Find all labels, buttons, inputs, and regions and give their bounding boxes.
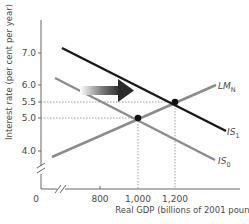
guide-lines [41, 102, 175, 189]
is-lm-chart: 7.0 6.0 5.5 5.0 4.0 Interest rate (per c… [0, 0, 249, 224]
x-tick-1000: 1,000 [125, 194, 151, 204]
y-tick-4: 4.0 [22, 146, 37, 156]
lm-label: LMN [218, 81, 236, 94]
x-origin-label: 0 [33, 194, 39, 204]
x-tick-1200: 1,200 [162, 194, 188, 204]
y-tick-5-5: 5.5 [22, 97, 36, 107]
shift-arrow-icon [80, 79, 134, 102]
x-axis: 0 800 1,000 1,200 Real GDP (billions of … [33, 185, 249, 215]
equilibrium-point-new [172, 99, 179, 106]
y-axis: 7.0 6.0 5.5 5.0 4.0 Interest rate (per c… [4, 4, 45, 189]
lm-curve [52, 85, 216, 157]
y-tick-6: 6.0 [22, 80, 37, 90]
x-axis-title: Real GDP (billions of 2001 pounds) [115, 205, 249, 215]
x-tick-800: 800 [91, 194, 108, 204]
is0-label: IS0 [218, 156, 231, 169]
y-tick-7: 7.0 [22, 48, 37, 58]
equilibrium-point-initial [135, 115, 142, 122]
y-axis-title: Interest rate (per cent per year) [4, 4, 14, 140]
y-tick-5: 5.0 [22, 113, 37, 123]
is1-label: IS1 [227, 127, 240, 140]
